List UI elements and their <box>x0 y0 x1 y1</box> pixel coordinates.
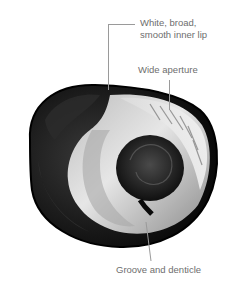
leader-line-lip-vertical <box>108 24 109 90</box>
label-groove-denticle: Groove and denticle <box>116 264 201 276</box>
label-inner-lip: White, broad, smooth inner lip <box>140 17 207 41</box>
leader-line-lip-horizontal <box>108 24 135 25</box>
label-wide-aperture: Wide aperture <box>138 64 198 76</box>
leader-line-aperture <box>169 80 170 110</box>
shell-illustration <box>0 0 230 288</box>
label-inner-lip-line1: White, broad, <box>140 17 207 29</box>
label-inner-lip-line2: smooth inner lip <box>140 29 207 41</box>
